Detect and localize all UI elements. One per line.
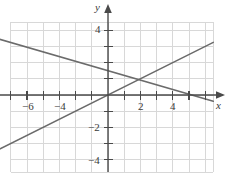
graph-canvas bbox=[0, 0, 228, 180]
y-tick-label-neg4: −4 bbox=[88, 155, 100, 166]
grid-lines bbox=[11, 22, 213, 172]
y-axis-arrow bbox=[104, 4, 112, 13]
y-tick-label-pos4: 4 bbox=[95, 24, 101, 35]
x-tick-label-neg4: −4 bbox=[54, 101, 66, 112]
x-tick-label-pos2: 2 bbox=[138, 101, 144, 112]
x-axis-arrow bbox=[216, 91, 225, 99]
coordinate-plane-figure: −6 −4 2 4 4 −2 −4 y x bbox=[0, 0, 228, 180]
axes-group bbox=[0, 11, 219, 172]
x-axis-name-label: x bbox=[216, 100, 221, 111]
series-rising-line bbox=[0, 42, 213, 154]
x-tick-label-pos4: 4 bbox=[170, 101, 176, 112]
y-axis-name-label: y bbox=[95, 2, 100, 13]
x-tick-label-neg6: −6 bbox=[22, 101, 34, 112]
y-tick-label-neg2: −2 bbox=[88, 122, 100, 133]
